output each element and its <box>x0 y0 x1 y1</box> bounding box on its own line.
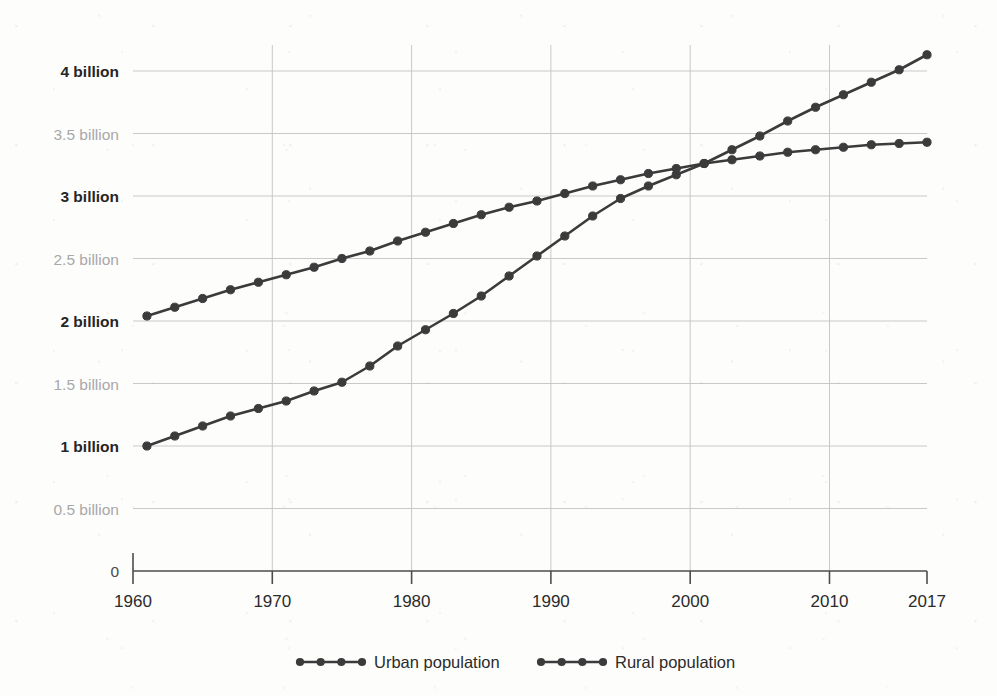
legend-marker-dot <box>599 658 607 666</box>
data-point <box>728 156 736 164</box>
data-point <box>533 197 541 205</box>
data-point <box>811 103 819 111</box>
data-point <box>477 292 485 300</box>
legend-item-urban-population[interactable]: Urban population <box>296 653 500 671</box>
data-point <box>533 252 541 260</box>
x-tick-label-1980: 1980 <box>393 592 431 611</box>
legend-marker-dot <box>337 658 345 666</box>
data-point <box>561 189 569 197</box>
legend-label-urban-population: Urban population <box>374 653 500 671</box>
data-point <box>644 169 652 177</box>
data-point <box>143 312 151 320</box>
data-point <box>421 228 429 236</box>
series-rural-population <box>143 138 931 320</box>
series-urban-population <box>143 51 931 450</box>
data-point <box>226 286 234 294</box>
y-tick-label-0: 0 <box>110 563 119 580</box>
data-point <box>839 91 847 99</box>
data-point <box>756 152 764 160</box>
data-point <box>700 159 708 167</box>
population-line-chart: 00.5 billion1 billion1.5 billion2 billio… <box>0 0 997 696</box>
x-tick-label-1990: 1990 <box>532 592 570 611</box>
data-point <box>839 143 847 151</box>
data-point <box>616 176 624 184</box>
series-line-rural-population <box>147 142 927 316</box>
x-axis-tick-labels: 1960197019801990200020102017 <box>114 592 946 611</box>
x-tick-label-1960: 1960 <box>114 592 152 611</box>
legend-marker-dot <box>537 658 545 666</box>
x-tick-label-1970: 1970 <box>253 592 291 611</box>
data-point <box>589 212 597 220</box>
y-tick-label-1: 1 billion <box>60 438 119 455</box>
legend-marker-dot <box>358 658 366 666</box>
y-tick-label-2p5: 2.5 billion <box>54 251 120 268</box>
data-point <box>449 219 457 227</box>
axis-lines <box>133 553 927 571</box>
data-point <box>867 78 875 86</box>
y-tick-label-3p5: 3.5 billion <box>54 126 120 143</box>
data-point <box>895 139 903 147</box>
chart-legend: Urban populationRural population <box>296 653 735 671</box>
data-point <box>449 309 457 317</box>
data-point <box>589 182 597 190</box>
data-series-layer <box>143 51 931 450</box>
y-tick-label-2: 2 billion <box>60 313 119 330</box>
data-point <box>282 397 290 405</box>
y-tick-label-0p5: 0.5 billion <box>54 501 120 518</box>
x-axis-tick-marks <box>133 571 927 584</box>
x-tick-label-2010: 2010 <box>811 592 849 611</box>
data-point <box>895 66 903 74</box>
data-point <box>366 362 374 370</box>
data-point <box>561 232 569 240</box>
data-point <box>310 263 318 271</box>
data-point <box>923 138 931 146</box>
data-point <box>254 278 262 286</box>
data-point <box>421 326 429 334</box>
data-point <box>923 51 931 59</box>
chart-canvas: 00.5 billion1 billion1.5 billion2 billio… <box>0 0 997 696</box>
legend-marker-dot <box>296 658 304 666</box>
data-point <box>171 303 179 311</box>
x-tick-label-2017: 2017 <box>908 592 946 611</box>
y-tick-label-1p5: 1.5 billion <box>54 376 120 393</box>
data-point <box>366 247 374 255</box>
data-point <box>784 148 792 156</box>
data-point <box>784 117 792 125</box>
series-line-urban-population <box>147 55 927 446</box>
data-point <box>394 342 402 350</box>
x-tick-label-2000: 2000 <box>671 592 709 611</box>
data-point <box>728 146 736 154</box>
data-point <box>254 404 262 412</box>
legend-marker-dot <box>558 658 566 666</box>
data-point <box>756 132 764 140</box>
data-point <box>199 422 207 430</box>
vertical-gridlines <box>272 45 829 571</box>
data-point <box>505 272 513 280</box>
data-point <box>338 254 346 262</box>
data-point <box>811 146 819 154</box>
data-point <box>226 412 234 420</box>
legend-item-rural-population[interactable]: Rural population <box>537 653 735 671</box>
data-point <box>616 194 624 202</box>
data-point <box>867 141 875 149</box>
data-point <box>199 294 207 302</box>
data-point <box>672 164 680 172</box>
y-tick-label-3: 3 billion <box>60 188 119 205</box>
legend-marker-dot <box>578 658 586 666</box>
data-point <box>282 271 290 279</box>
data-point <box>338 378 346 386</box>
data-point <box>477 211 485 219</box>
data-point <box>171 432 179 440</box>
data-point <box>310 387 318 395</box>
y-tick-label-4: 4 billion <box>60 63 119 80</box>
y-axis-tick-labels: 00.5 billion1 billion1.5 billion2 billio… <box>54 63 120 580</box>
data-point <box>644 182 652 190</box>
data-point <box>505 203 513 211</box>
legend-label-rural-population: Rural population <box>615 653 735 671</box>
data-point <box>143 442 151 450</box>
horizontal-gridlines <box>133 71 927 509</box>
data-point <box>394 237 402 245</box>
legend-marker-dot <box>317 658 325 666</box>
